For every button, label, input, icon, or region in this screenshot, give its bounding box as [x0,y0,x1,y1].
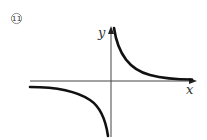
x-axis-label: x [186,82,193,97]
y-axis-label: y [98,25,105,40]
hyperbola-graph [0,0,207,140]
curve-branch-quadrant-3 [30,87,108,136]
curve-branch-quadrant-1 [114,28,192,80]
